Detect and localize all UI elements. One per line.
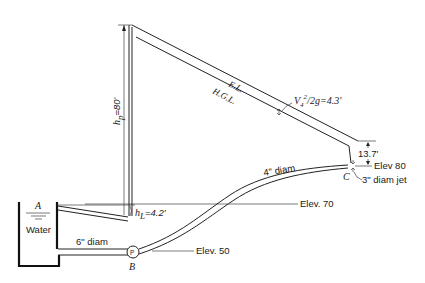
discharge-pipe-bottom bbox=[139, 168, 348, 254]
elev-50-label: Elev. 50 bbox=[196, 245, 230, 256]
energy-line bbox=[132, 25, 358, 141]
elev-80-label: Elev 80 bbox=[374, 160, 406, 171]
velocity-head-label: V42/2g=4.3' bbox=[294, 93, 342, 109]
pump-head-label: hp=80' bbox=[111, 96, 125, 125]
hydraulic-diagram: Water A Elev. 70 hL=4.2' 6" diam P B Ele… bbox=[0, 0, 425, 283]
drop-arrow-down-icon bbox=[366, 161, 370, 165]
point-a-label: A bbox=[34, 200, 42, 211]
head-loss-label: hL=4.2' bbox=[135, 207, 167, 221]
point-c-label: C bbox=[343, 171, 350, 182]
pump-symbol: P bbox=[130, 249, 134, 256]
jet-label: 3" diam jet bbox=[362, 174, 407, 185]
point-b-label: B bbox=[129, 261, 135, 272]
pump-head-arrow-icon bbox=[122, 25, 126, 31]
hgl-drop-to-nozzle bbox=[349, 146, 351, 163]
drop-label: 13.7' bbox=[358, 148, 378, 159]
pipe-6in-label: 6" diam bbox=[76, 236, 108, 247]
water-label: Water bbox=[26, 224, 51, 235]
drop-arrow-up-icon bbox=[366, 142, 370, 146]
hgl-line bbox=[136, 37, 349, 146]
pipe-4in-label: 4" diam bbox=[263, 162, 296, 178]
jet-leader bbox=[354, 172, 362, 180]
head-loss-brace bbox=[130, 206, 132, 216]
elev-70-label: Elev. 70 bbox=[300, 198, 334, 209]
jet-arrows bbox=[351, 160, 355, 172]
